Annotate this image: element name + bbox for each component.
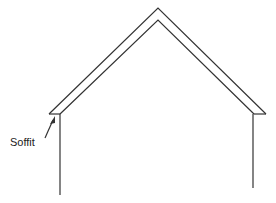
soffit-arrowhead-icon bbox=[50, 116, 55, 124]
roof-diagram bbox=[0, 0, 276, 203]
roof-outer-line bbox=[49, 8, 266, 114]
roof-inner-line bbox=[60, 20, 254, 114]
soffit-label: Soffit bbox=[10, 136, 35, 148]
diagram-canvas: Soffit bbox=[0, 0, 276, 203]
